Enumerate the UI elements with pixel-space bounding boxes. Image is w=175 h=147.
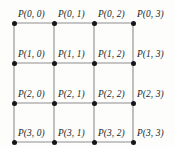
- lattice-grid-figure: P(0, 0)P(0, 1)P(0, 2)P(0, 3)P(1, 0)P(1, …: [0, 0, 175, 147]
- grid-node: [131, 101, 136, 106]
- grid-nodes-layer: P(0, 0)P(0, 1)P(0, 2)P(0, 3)P(1, 0)P(1, …: [0, 0, 175, 147]
- grid-node-label: P(0, 2): [98, 9, 125, 19]
- grid-node-label: P(0, 0): [18, 9, 45, 19]
- grid-node: [92, 21, 97, 26]
- grid-node: [12, 140, 17, 145]
- grid-node: [52, 21, 57, 26]
- grid-node-label: P(1, 2): [98, 49, 125, 59]
- grid-node: [92, 140, 97, 145]
- grid-node-label: P(3, 0): [18, 128, 45, 138]
- grid-node: [12, 21, 17, 26]
- grid-node: [52, 140, 57, 145]
- grid-node-label: P(1, 0): [18, 49, 45, 59]
- grid-node: [12, 101, 17, 106]
- grid-node-label: P(0, 1): [58, 9, 85, 19]
- grid-node-label: P(2, 0): [18, 89, 45, 99]
- grid-node: [131, 21, 136, 26]
- grid-node-label: P(2, 2): [98, 89, 125, 99]
- grid-node: [92, 101, 97, 106]
- grid-node-label: P(2, 1): [58, 89, 85, 99]
- grid-node: [52, 101, 57, 106]
- grid-node: [92, 61, 97, 66]
- grid-node-label: P(0, 3): [137, 9, 164, 19]
- grid-node-label: P(2, 3): [137, 89, 164, 99]
- grid-node-label: P(1, 3): [137, 49, 164, 59]
- grid-node: [131, 140, 136, 145]
- grid-node-label: P(3, 3): [137, 128, 164, 138]
- grid-node: [131, 61, 136, 66]
- grid-node-label: P(1, 1): [58, 49, 85, 59]
- grid-node-label: P(3, 1): [58, 128, 85, 138]
- grid-node-label: P(3, 2): [98, 128, 125, 138]
- grid-node: [52, 61, 57, 66]
- grid-node: [12, 61, 17, 66]
